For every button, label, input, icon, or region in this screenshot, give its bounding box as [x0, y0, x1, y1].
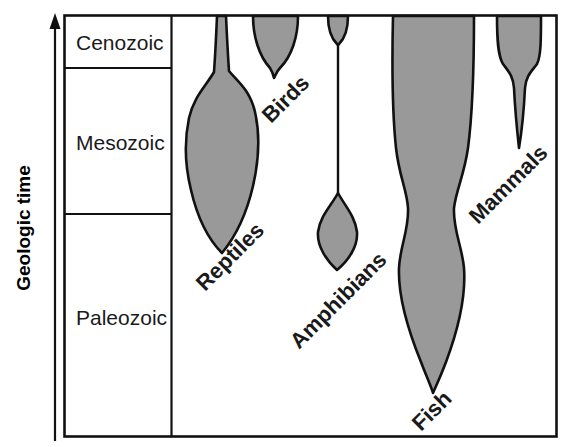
figure-canvas: Geologic time Cenozoic Mesozoic Paleozoi…	[0, 0, 567, 447]
spindle-diagram: Geologic time Cenozoic Mesozoic Paleozoi…	[0, 0, 567, 447]
era-label-paleozoic: Paleozoic	[76, 306, 167, 329]
axis-title: Geologic time	[13, 165, 34, 291]
era-label-mesozoic: Mesozoic	[76, 131, 165, 154]
era-label-cenozoic: Cenozoic	[76, 31, 164, 54]
